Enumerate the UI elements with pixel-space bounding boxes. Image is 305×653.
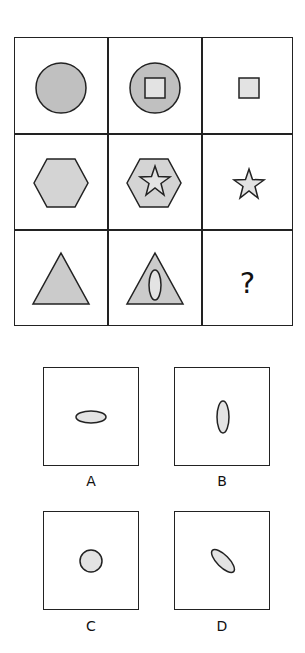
cell-r2c3-star-icon <box>234 169 264 198</box>
option-d-label: D <box>174 619 270 633</box>
option-b-box[interactable] <box>174 367 270 466</box>
cell-r1c1-circle-icon <box>36 63 86 113</box>
option-c-box[interactable] <box>43 511 139 610</box>
cell-r1c2-circle-with-square-icon <box>130 63 180 113</box>
option-a-label: A <box>43 474 139 488</box>
vertical-ellipse-icon <box>175 368 271 467</box>
cell-r3c2-triangle-with-ellipse-icon <box>127 253 183 304</box>
cell-r2c1-hexagon-icon <box>34 159 88 207</box>
missing-cell-question-mark: ? <box>201 269 294 298</box>
option-a-box[interactable] <box>43 367 139 466</box>
option-b-label: B <box>174 474 270 488</box>
horizontal-ellipse-icon <box>44 368 140 467</box>
cell-r3c1-triangle-icon <box>33 253 89 304</box>
puzzle-grid: ? <box>14 37 293 326</box>
option-d-box[interactable] <box>174 511 270 610</box>
circle-icon <box>44 512 140 611</box>
option-c-label: C <box>43 619 139 633</box>
diagonal-ellipse-icon <box>175 512 271 611</box>
cell-r1c3-square-icon <box>239 78 259 98</box>
cell-r2c2-hexagon-with-star-icon <box>127 159 181 207</box>
